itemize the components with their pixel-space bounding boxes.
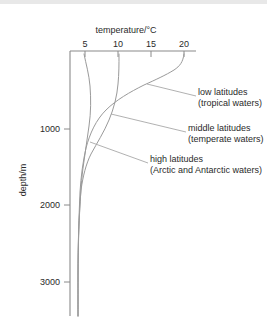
leader-line-middle-latitudes — [111, 114, 186, 132]
annotation-middle-latitudes-line1: middle latitudes — [188, 123, 251, 133]
curve-high-latitudes — [78, 54, 91, 316]
curve-low-latitudes — [78, 54, 184, 316]
y-tick-label-2000: 2000 — [40, 200, 60, 210]
x-tick-label-5: 5 — [82, 39, 87, 49]
x-tick-label-15: 15 — [146, 39, 156, 49]
y-axis-title: depth/m — [18, 164, 28, 197]
annotation-middle-latitudes-line2: (temperate waters) — [188, 134, 264, 144]
annotation-low-latitudes-line2: (tropical waters) — [198, 98, 262, 108]
annotation-high-latitudes-line2: (Arctic and Antarctic waters) — [150, 165, 262, 175]
x-tick-label-10: 10 — [113, 39, 123, 49]
temperature-depth-chart: temperature/°C 5 10 15 20 1000 2000 3000… — [0, 0, 267, 331]
x-tick-label-20: 20 — [179, 39, 189, 49]
annotation-low-latitudes-line1: low latitudes — [198, 87, 248, 97]
curve-middle-latitudes — [78, 54, 119, 316]
y-tick-label-1000: 1000 — [40, 124, 60, 134]
top-edge-band — [0, 0, 267, 4]
leader-line-high-latitudes — [90, 142, 148, 163]
x-axis-title: temperature/°C — [95, 25, 157, 35]
temperature-depth-figure: temperature/°C 5 10 15 20 1000 2000 3000… — [0, 0, 267, 331]
annotation-high-latitudes-line1: high latitudes — [150, 154, 204, 164]
leader-line-low-latitudes — [147, 84, 196, 96]
y-tick-label-3000: 3000 — [40, 277, 60, 287]
